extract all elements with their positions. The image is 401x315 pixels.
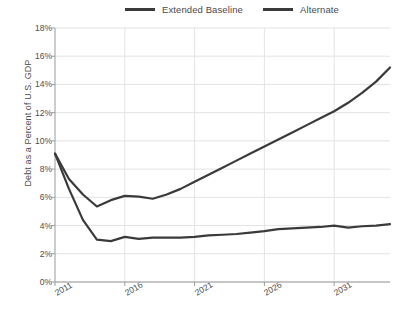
series-line-extended-baseline <box>55 68 390 207</box>
chart-container: Extended Baseline Alternate Debt as a Pe… <box>0 0 401 315</box>
plot-area <box>0 0 401 315</box>
